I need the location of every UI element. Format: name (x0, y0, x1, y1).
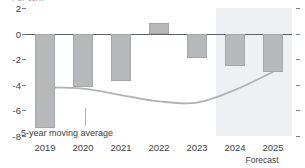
y-tick-mark (22, 34, 26, 35)
bar-2021 (111, 34, 131, 81)
y-tick-mark (22, 110, 26, 111)
bar-2025 (263, 34, 283, 72)
bar-2019 (35, 34, 55, 129)
y-tick-mark-right (296, 34, 300, 35)
moving-average-annotation: 5-year moving average (21, 128, 113, 138)
x-tick-label-2022: 2022 (148, 142, 169, 153)
x-tick-label-2023: 2023 (186, 142, 207, 153)
y-tick-mark (22, 85, 26, 86)
y-tick-label: 2 (0, 3, 21, 14)
bar-2020 (73, 34, 93, 88)
y-tick-mark-right (296, 85, 300, 86)
x-tick-label-2021: 2021 (110, 142, 131, 153)
y-tick-mark (22, 8, 26, 9)
x-tick-label-2020: 2020 (72, 142, 93, 153)
y-tick-label: -4 (0, 79, 21, 90)
bar-2024 (225, 34, 245, 66)
x-tick-label-2025: 2025 (262, 142, 283, 153)
y-tick-label: 0 (0, 28, 21, 39)
annotation-leader-line (85, 108, 86, 126)
y-tick-label: -6 (0, 105, 21, 116)
y-tick-label: -8 (0, 131, 21, 142)
chart-container: Per cent 20-2-4-6-8 20192020202120222023… (0, 0, 305, 168)
x-tick-label-2024: 2024 (224, 142, 245, 153)
y-tick-mark-right (296, 59, 300, 60)
bar-2023 (187, 34, 207, 58)
y-tick-label: -2 (0, 54, 21, 65)
forecast-axis-label: Forecast (245, 155, 278, 165)
y-tick-mark-right (296, 110, 300, 111)
bar-2022 (149, 23, 169, 33)
y-tick-mark-right (296, 136, 300, 137)
y-tick-mark-right (296, 8, 300, 9)
y-tick-mark (22, 59, 26, 60)
x-tick-label-2019: 2019 (34, 142, 55, 153)
